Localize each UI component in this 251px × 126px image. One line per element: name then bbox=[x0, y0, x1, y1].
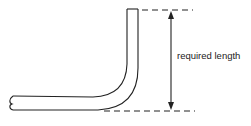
pipe-outer-wall bbox=[13, 9, 138, 110]
pipe-inner-wall bbox=[13, 9, 127, 97]
arrow-down-icon bbox=[168, 102, 174, 110]
required-length-label: required length bbox=[177, 50, 240, 61]
arrow-up-icon bbox=[168, 11, 174, 19]
pipe-break-end bbox=[10, 96, 13, 110]
pipe-bend-diagram bbox=[0, 0, 251, 126]
